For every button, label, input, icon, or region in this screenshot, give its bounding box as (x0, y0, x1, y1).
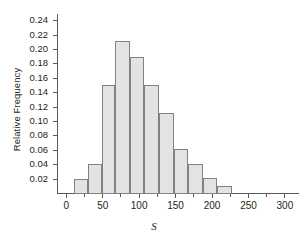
histogram-bar (88, 164, 103, 194)
x-axis-tick: 50 (102, 194, 103, 198)
y-axis-tick-label: 0.20 (30, 43, 49, 54)
x-axis-minor-tick (230, 194, 231, 197)
x-axis-tick: 0 (66, 194, 67, 198)
histogram-bar (102, 85, 115, 194)
x-axis-title: S (0, 220, 308, 232)
x-axis-tick-label: 50 (97, 200, 108, 211)
y-axis-tick: 0.08 (53, 135, 57, 136)
histogram-bar (144, 85, 159, 194)
y-axis-tick: 0.02 (53, 179, 57, 180)
x-axis-tick: 150 (175, 194, 176, 198)
y-axis-tick: 0.12 (53, 107, 57, 108)
histogram-bar (130, 57, 145, 194)
y-axis-title: Relative Frequency (11, 45, 22, 175)
y-axis-tick: 0.24 (53, 20, 57, 21)
y-axis-tick-label: 0.10 (30, 115, 49, 126)
y-axis-tick: 0.10 (53, 121, 57, 122)
x-axis-minor-tick (120, 194, 121, 197)
histogram-bar (203, 178, 218, 194)
x-axis-tick: 100 (139, 194, 140, 198)
x-axis-tick: 250 (248, 194, 249, 198)
plot-area: 0.020.040.060.080.100.120.140.160.180.20… (57, 14, 299, 194)
y-axis-tick: 0.22 (53, 35, 57, 36)
y-axis-tick-label: 0.06 (30, 144, 49, 155)
x-axis-minor-tick (266, 194, 267, 197)
y-axis-tick: 0.20 (53, 49, 57, 50)
x-axis-tick-label: 150 (167, 200, 184, 211)
y-axis-tick-label: 0.02 (30, 173, 49, 184)
y-axis-tick-label: 0.08 (30, 129, 49, 140)
y-axis-tick-label: 0.04 (30, 158, 49, 169)
y-axis-tick-label: 0.14 (30, 86, 49, 97)
y-axis-tick: 0.14 (53, 92, 57, 93)
histogram-bar (74, 179, 87, 194)
y-axis-tick: 0.18 (53, 63, 57, 64)
x-axis-minor-tick (193, 194, 194, 197)
x-axis-tick: 300 (284, 194, 285, 198)
y-axis-tick-label: 0.24 (30, 14, 49, 25)
histogram-figure: Relative Frequency 0.020.040.060.080.100… (0, 0, 308, 241)
y-axis-tick: 0.16 (53, 78, 57, 79)
y-axis-tick-label: 0.22 (30, 29, 49, 40)
y-axis-tick: 0.06 (53, 150, 57, 151)
x-axis-minor-tick (157, 194, 158, 197)
y-axis-tick: 0.04 (53, 164, 57, 165)
y-axis-tick-label: 0.18 (30, 57, 49, 68)
x-axis-tick-label: 0 (63, 200, 69, 211)
x-axis-minor-tick (84, 194, 85, 197)
y-axis-line (57, 14, 58, 194)
x-axis-tick-label: 250 (240, 200, 257, 211)
x-axis-tick-label: 300 (277, 200, 294, 211)
histogram-bar (115, 41, 130, 194)
histogram-bar (188, 164, 203, 194)
histogram-bar (159, 113, 174, 194)
y-axis-tick-label: 0.16 (30, 72, 49, 83)
histogram-bar (217, 186, 232, 194)
y-axis-tick-label: 0.12 (30, 101, 49, 112)
x-axis-tick: 200 (212, 194, 213, 198)
x-axis-tick-label: 100 (131, 200, 148, 211)
histogram-bar (174, 149, 189, 194)
x-axis-tick-label: 200 (204, 200, 221, 211)
